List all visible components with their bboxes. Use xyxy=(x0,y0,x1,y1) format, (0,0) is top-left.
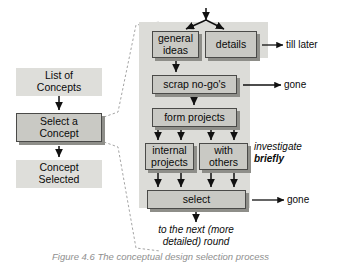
arrow-fork-to-general-ideas xyxy=(186,20,206,29)
arrow-fork-to-details xyxy=(206,20,224,29)
